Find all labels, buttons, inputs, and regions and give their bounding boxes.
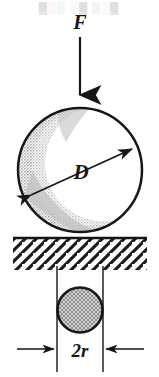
- contact-area-circle: [58, 288, 103, 333]
- ground-hatching: [13, 239, 147, 270]
- figure-container: ▓░▒ ░▓ ▒░▓ F D: [0, 0, 159, 377]
- contact-diameter-label: 2r: [71, 340, 90, 361]
- ground-surface: [13, 238, 147, 270]
- hertzian-contact-diagram: ▓░▒ ░▓ ▒░▓ F D: [0, 0, 159, 377]
- diameter-label: D: [72, 160, 88, 184]
